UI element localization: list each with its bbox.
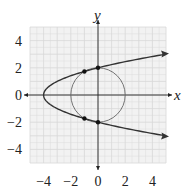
chart: −4−2024420−2−4 y x [0,0,187,192]
x-tick-label: 2 [122,174,129,189]
y-tick-label: −2 [7,115,22,130]
x-axis-label: x [173,87,181,103]
x-tick-label: 4 [149,174,156,189]
intersection-point [96,120,100,124]
intersection-point [82,116,86,120]
x-tick-label: −4 [36,174,51,189]
y-axis-arrow-down-icon [96,166,100,170]
x-axis-arrow-icon [168,93,172,97]
y-axis-label: y [92,7,101,23]
intersection-point [82,69,86,73]
y-tick-label: −4 [7,142,22,157]
x-tick-label: 0 [95,174,102,189]
y-tick-label: 4 [15,34,22,49]
y-tick-label: 0 [15,88,22,103]
y-tick-label: 2 [15,61,22,76]
x-tick-label: −2 [63,174,78,189]
x-axis-arrow-left-icon [24,93,28,97]
intersection-point [96,66,100,70]
